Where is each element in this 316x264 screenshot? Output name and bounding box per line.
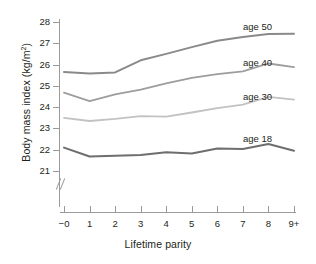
series-line-age-18 bbox=[64, 144, 294, 157]
series-label-age-30: age 30 bbox=[243, 92, 272, 102]
series-label-age-50: age 50 bbox=[243, 22, 272, 32]
series-label-age-18: age 18 bbox=[243, 134, 272, 144]
series-lines bbox=[0, 0, 316, 264]
bmi-parity-line-chart: Body mass index (kg/m2) 2122232425262728… bbox=[0, 0, 316, 264]
series-label-age-40: age 40 bbox=[243, 58, 272, 68]
